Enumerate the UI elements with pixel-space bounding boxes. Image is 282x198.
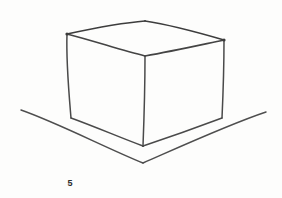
figure-caption: 5: [58, 178, 82, 189]
cube-corner-top-front: [144, 55, 146, 57]
figure-page: 5: [0, 0, 282, 198]
cube-corner-top-right: [222, 38, 225, 41]
cube-corner-top-back: [144, 20, 146, 22]
cube-corner-top-left: [65, 32, 68, 35]
cube-corner-bottom-front: [142, 145, 144, 147]
paper-background: [0, 0, 282, 198]
cube-perspective-sketch: [0, 0, 282, 198]
